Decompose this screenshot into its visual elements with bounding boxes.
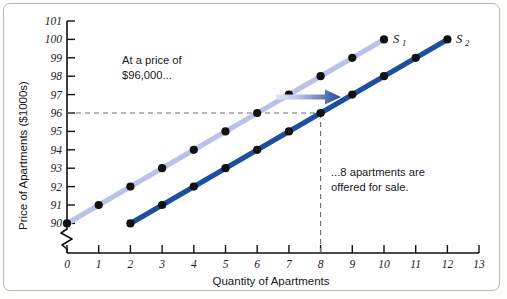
s1-curve-label-subscript: 1 xyxy=(402,38,406,48)
y-axis-title: Price of Apartments ($1000s) xyxy=(17,81,29,230)
y-axis-ticks xyxy=(67,21,75,223)
y-tick-label-101: 101 xyxy=(45,15,62,27)
x-tick-label-8: 8 xyxy=(318,258,324,270)
x-tick-label-1: 1 xyxy=(96,258,102,270)
x-tick-label-10: 10 xyxy=(378,258,390,270)
x-tick-label-7: 7 xyxy=(286,258,293,270)
y-tick-label-98: 98 xyxy=(51,70,63,82)
chart-svg: 101 100 99 98 97 96 95 94 93 92 91 90 Pr… xyxy=(0,0,507,299)
s1-curve-label: S xyxy=(393,32,400,46)
supply-shift-arrow xyxy=(276,90,341,105)
y-tick-label-95: 95 xyxy=(51,125,63,137)
x-axis: 0 1 2 3 4 5 6 7 8 9 10 11 12 13 Quantity… xyxy=(64,245,485,287)
s2-curve-label-subscript: 2 xyxy=(465,38,470,48)
supply-curve-figure: 101 100 99 98 97 96 95 94 93 92 91 90 Pr… xyxy=(0,0,507,299)
price-callout: At a price of $96,000... xyxy=(122,54,183,81)
x-tick-label-5: 5 xyxy=(223,258,229,270)
x-axis-title: Quantity of Apartments xyxy=(213,275,330,287)
y-tick-label-92: 92 xyxy=(51,181,63,193)
y-tick-label-99: 99 xyxy=(51,52,63,64)
shift-arrow-shape xyxy=(276,90,341,105)
y-tick-label-94: 94 xyxy=(51,144,63,156)
series-s1: S 1 xyxy=(63,32,406,228)
x-tick-label-2: 2 xyxy=(128,258,134,270)
y-tick-label-93: 93 xyxy=(51,162,63,174)
x-tick-label-12: 12 xyxy=(442,258,454,270)
price-callout-line1: At a price of xyxy=(122,54,183,66)
x-tick-label-13: 13 xyxy=(473,258,485,270)
x-tick-label-9: 9 xyxy=(349,258,355,270)
x-axis-ticks xyxy=(67,245,479,253)
x-tick-label-11: 11 xyxy=(410,258,421,270)
x-tick-label-3: 3 xyxy=(158,258,165,270)
x-tick-label-6: 6 xyxy=(254,258,260,270)
y-tick-label-100: 100 xyxy=(45,33,63,45)
plot-area: 101 100 99 98 97 96 95 94 93 92 91 90 Pr… xyxy=(0,0,507,299)
y-tick-label-96: 96 xyxy=(51,107,63,119)
y-tick-label-90: 90 xyxy=(51,217,63,229)
s2-curve-label: S xyxy=(456,32,463,46)
quantity-callout-line1: ...8 apartments are xyxy=(331,166,425,178)
x-tick-label-4: 4 xyxy=(191,258,197,270)
price-callout-line2: $96,000... xyxy=(122,69,172,81)
y-tick-label-97: 97 xyxy=(51,89,64,101)
quantity-callout-line2: offered for sale. xyxy=(331,181,409,193)
y-axis: 101 100 99 98 97 96 95 94 93 92 91 90 Pr… xyxy=(17,15,75,253)
y-tick-label-91: 91 xyxy=(51,199,63,211)
quantity-callout: ...8 apartments are offered for sale. xyxy=(331,166,425,193)
x-tick-label-0: 0 xyxy=(64,258,70,270)
